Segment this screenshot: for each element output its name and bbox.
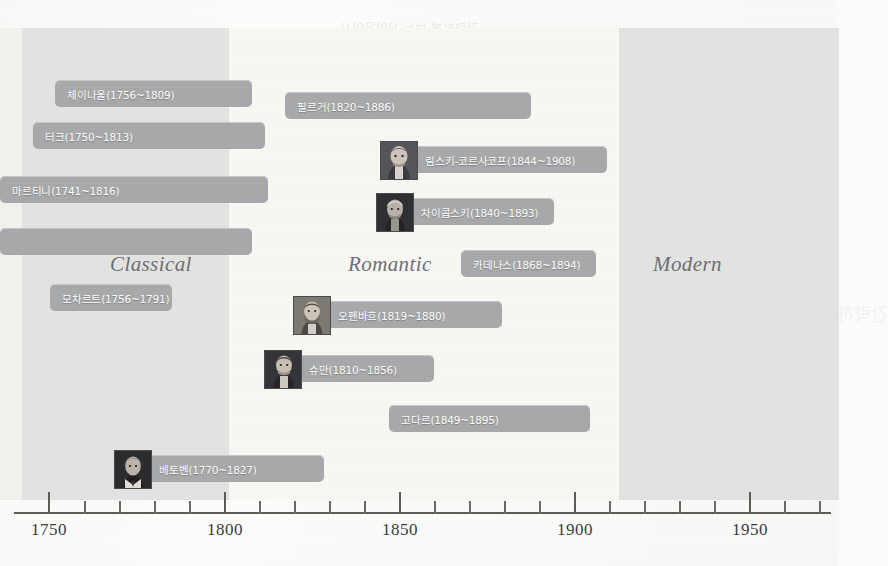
composer-portrait-icon	[293, 296, 331, 335]
axis-tick-minor	[819, 501, 821, 514]
axis-tick-minor	[714, 501, 716, 514]
timeline-axis	[14, 512, 831, 514]
composer-label: 모차르트(1756~1791)	[62, 290, 169, 305]
axis-tick-minor	[119, 501, 121, 514]
axis-tick-1850	[399, 492, 401, 514]
composer-bar-schumann[interactable]: 슈만(1810~1856)	[267, 355, 434, 382]
axis-tick-minor	[434, 501, 436, 514]
composer-bar-cheinaul[interactable]: 체이나울(1756~1809)	[55, 80, 252, 107]
composer-label: 필르거(1820~1886)	[297, 98, 395, 113]
composer-label: 마르티니(1741~1816)	[12, 182, 119, 197]
axis-tick-minor	[329, 501, 331, 514]
axis-tick-1800	[224, 492, 226, 514]
axis-tick-minor	[644, 501, 646, 514]
axis-label-1900: 1900	[557, 520, 593, 540]
era-label-classical: Classical	[110, 252, 192, 277]
composer-bar-cadenas[interactable]: 카데나스(1868~1894)	[461, 250, 596, 277]
axis-label-1750: 1750	[31, 520, 67, 540]
composer-bar-mozart[interactable]: 모차르트(1756~1791)	[50, 284, 172, 311]
axis-tick-minor	[469, 501, 471, 514]
composer-label: 베토벤(1770~1827)	[159, 461, 257, 476]
axis-tick-1750	[48, 492, 50, 514]
axis-tick-minor	[539, 501, 541, 514]
axis-tick-minor	[609, 501, 611, 514]
composer-label: 체이나울(1756~1809)	[67, 86, 174, 101]
axis-label-1850: 1850	[382, 520, 418, 540]
axis-tick-minor	[504, 501, 506, 514]
composer-portrait-icon	[380, 141, 418, 180]
axis-label-1950: 1950	[732, 520, 768, 540]
axis-tick-minor	[679, 501, 681, 514]
composer-bar-rimsky-korsakov[interactable]: 림스키-코르사코프(1844~1908)	[383, 146, 607, 173]
composer-bar-tchaikovsky[interactable]: 차이콥스키(1840~1893)	[379, 198, 554, 225]
composer-bar-turk[interactable]: 터크(1750~1813)	[33, 122, 265, 149]
composer-bar-pfluger[interactable]: 필르거(1820~1886)	[285, 92, 531, 119]
left-margin-strip	[0, 28, 22, 500]
composer-label: 카데나스(1868~1894)	[473, 256, 580, 271]
axis-tick-minor	[294, 501, 296, 514]
axis-tick-minor	[364, 501, 366, 514]
axis-tick-1900	[574, 492, 576, 514]
axis-tick-1950	[749, 492, 751, 514]
composer-label: 터크(1750~1813)	[45, 128, 133, 143]
composer-label: 차이콥스키(1840~1893)	[421, 204, 538, 219]
era-label-modern: Modern	[653, 252, 722, 277]
composer-bar-beethoven[interactable]: 베토벤(1770~1827)	[117, 455, 324, 482]
composer-portrait-icon	[114, 450, 152, 489]
composer-portrait-icon	[376, 193, 414, 232]
composer-label: 슈만(1810~1856)	[309, 361, 397, 376]
era-label-romantic: Romantic	[348, 252, 432, 277]
composer-label: 림스키-코르사코프(1844~1908)	[425, 152, 575, 167]
axis-tick-minor	[154, 501, 156, 514]
axis-tick-minor	[84, 501, 86, 514]
axis-label-1800: 1800	[207, 520, 243, 540]
composer-bar-martini[interactable]: 마르티니(1741~1816)	[0, 176, 268, 203]
composer-bar-godard[interactable]: 고다르(1849~1895)	[389, 405, 590, 432]
composer-portrait-icon	[264, 350, 302, 389]
composer-label: 고다르(1849~1895)	[401, 411, 499, 426]
axis-tick-labels: 1750 1800 1850 1900 1950	[14, 530, 831, 558]
composer-bar-offenbach[interactable]: 오펜바흐(1819~1880)	[296, 301, 502, 328]
axis-tick-minor	[784, 501, 786, 514]
composer-label: 오펜바흐(1819~1880)	[338, 307, 445, 322]
axis-tick-minor	[259, 501, 261, 514]
composer-bar-unlabeled[interactable]	[0, 228, 252, 255]
axis-tick-minor	[189, 501, 191, 514]
era-band-modern	[619, 28, 839, 500]
